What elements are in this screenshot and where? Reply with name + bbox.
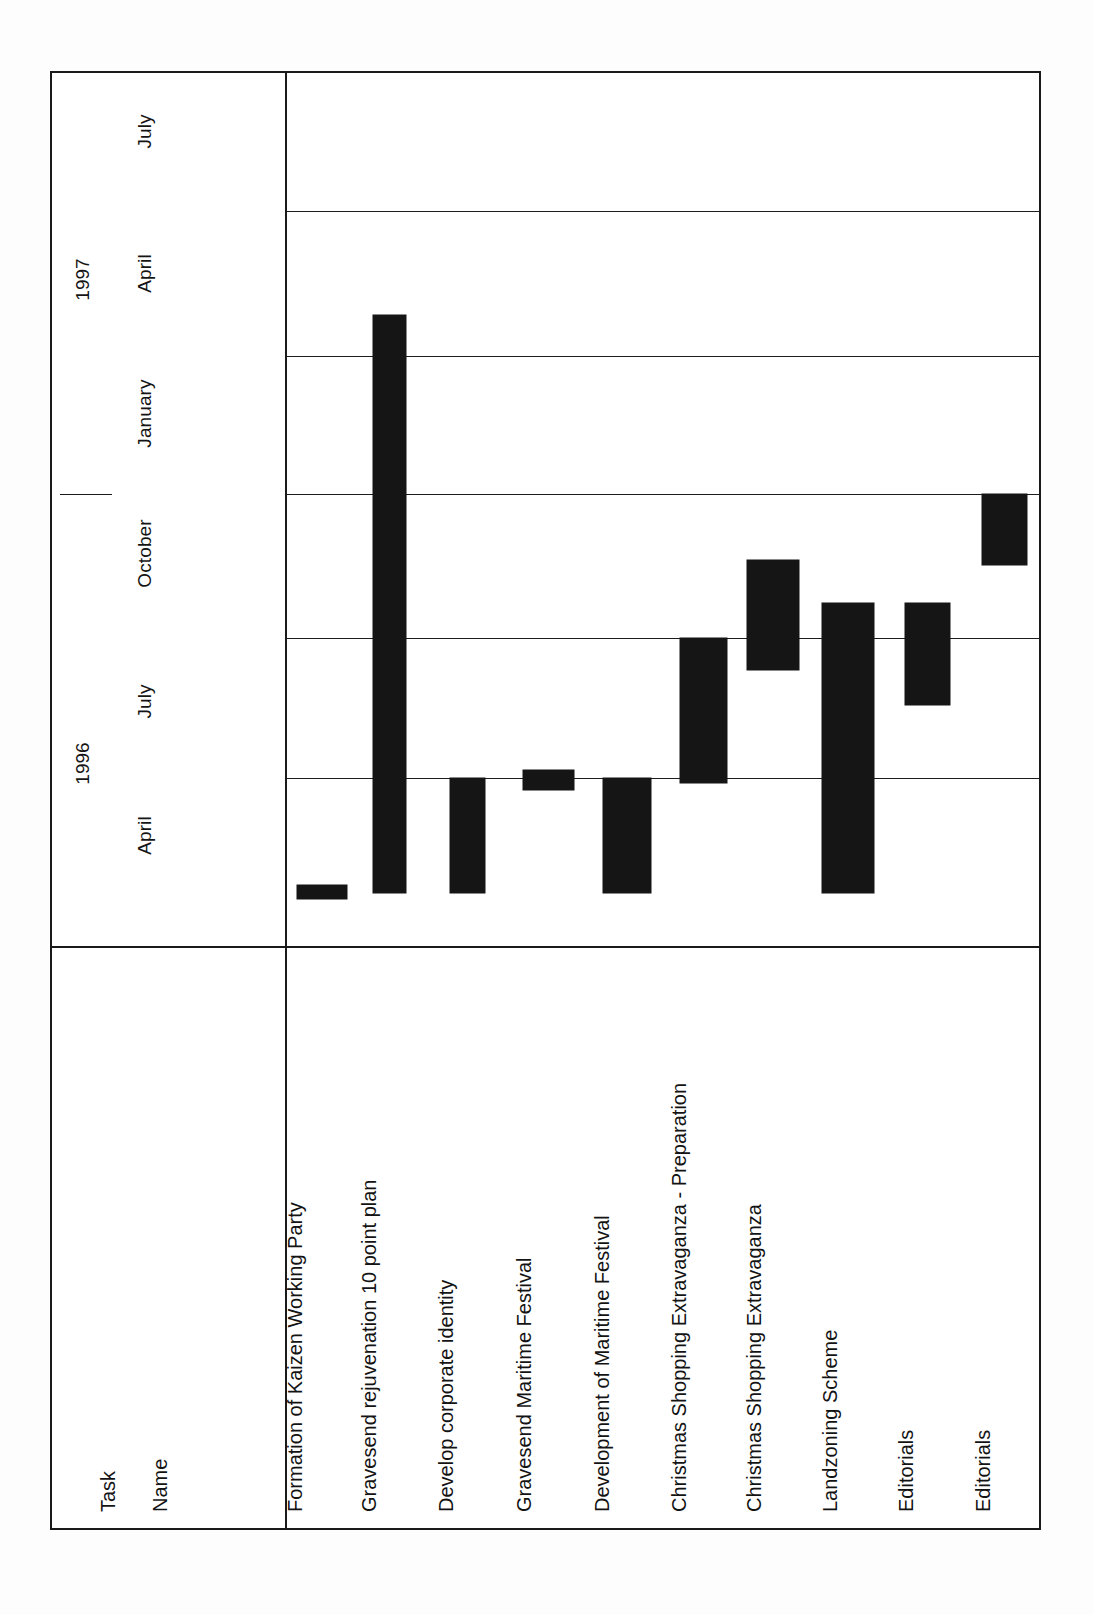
task-column-header-line2: Name [150, 1459, 170, 1512]
month-label-january-1997: January [110, 403, 178, 425]
year-label-1996: 1996 [54, 753, 110, 775]
gantt-bar-christmas-shopping-extravaganza-preparation[interactable] [680, 638, 727, 783]
task-name-row-2[interactable]: Gravesend rejuvenation 10 point plan [359, 1180, 379, 1512]
task-name-row-6[interactable]: Christmas Shopping Extravaganza - Prepar… [669, 1083, 689, 1512]
gantt-bar-editorials-1[interactable] [905, 603, 950, 705]
gantt-bar-gravesend-rejuvenation-10-point-plan[interactable] [373, 315, 406, 893]
year-label-1997: 1997 [54, 269, 110, 291]
year-band-divider [60, 494, 112, 495]
task-column-header: Task Name [52, 948, 285, 1528]
gantt-bar-formation-of-kaizen-working-party[interactable] [297, 885, 347, 899]
task-name-row-7[interactable]: Christmas Shopping Extravaganza [744, 1204, 764, 1512]
month-label-october-1996: October [110, 543, 178, 565]
month-label-july-1997: July [110, 121, 178, 143]
task-name-row-4[interactable]: Gravesend Maritime Festival [514, 1257, 534, 1512]
task-name-row-5[interactable]: Development of Maritime Festival [592, 1215, 612, 1512]
task-column-header-line1: Task [98, 1471, 118, 1512]
timescale-header: 1997 1996 July April January October Jul… [52, 73, 1039, 946]
gantt-chart-frame: 1997 1996 July April January October Jul… [50, 71, 1041, 1530]
task-name-row-3[interactable]: Develop corporate identity [436, 1280, 456, 1512]
month-label-april-1997: April [110, 263, 178, 285]
gantt-bar-develop-corporate-identity[interactable] [450, 778, 485, 893]
task-name-row-8[interactable]: Landzoning Scheme [820, 1330, 840, 1512]
month-label-april-1996: April [110, 825, 178, 847]
gantt-bar-landzoning-scheme[interactable] [822, 603, 874, 893]
task-name-row-10[interactable]: Editorials [973, 1430, 993, 1512]
gantt-bar-christmas-shopping-extravaganza[interactable] [747, 560, 799, 670]
gantt-bar-development-of-maritime-festival[interactable] [603, 778, 651, 893]
month-label-july-1996: July [110, 691, 178, 713]
task-name-list: Formation of Kaizen Working Party Graves… [285, 948, 1039, 1528]
gantt-plot-area [285, 73, 1039, 946]
task-name-row-1[interactable]: Formation of Kaizen Working Party [285, 1202, 305, 1512]
task-name-row-9[interactable]: Editorials [896, 1430, 916, 1512]
gantt-bar-editorials-2[interactable] [982, 494, 1027, 565]
gantt-bar-gravesend-maritime-festival[interactable] [523, 770, 574, 790]
